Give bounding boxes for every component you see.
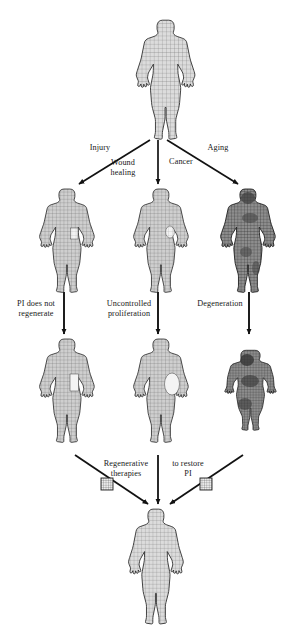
- node-non-regenerating-body: [40, 339, 95, 442]
- tumour-mass: [165, 373, 180, 395]
- body-silhouette: [40, 339, 95, 442]
- label-to-restore-pi: to restore PI: [162, 459, 214, 478]
- body-silhouette: [134, 339, 189, 442]
- body-silhouette: [221, 189, 276, 292]
- body-silhouette: [134, 189, 189, 292]
- body-silhouette: [136, 20, 195, 139]
- grid-scaffold-icon: [200, 478, 212, 490]
- label-injury: Injury: [78, 143, 122, 153]
- body-silhouette: [129, 509, 184, 624]
- label-regenerative-therapies: Regenerative therapies: [95, 459, 157, 478]
- aging-patch: [242, 213, 258, 223]
- aging-patch: [252, 261, 260, 275]
- label-cancer: Cancer: [160, 157, 202, 167]
- label-wound-healing: Wound healing: [95, 158, 151, 177]
- non-regenerated-defect: [70, 374, 79, 391]
- body-silhouette: [40, 189, 95, 292]
- label-degeneration: Degeneration: [189, 299, 251, 309]
- tumour-marker: [166, 226, 175, 238]
- node-degenerated-body: [225, 350, 276, 430]
- flow-diagram: Injury Wound healing Cancer Aging PI doe…: [0, 0, 297, 632]
- aging-patch: [241, 192, 255, 204]
- node-injured-body: [40, 189, 95, 292]
- label-aging: Aging: [198, 143, 238, 153]
- label-pi-does-not-regenerate: PI does not regenerate: [6, 299, 66, 318]
- node-healthy-top: [136, 20, 195, 139]
- node-proliferating-body: [134, 339, 189, 442]
- aging-patch: [240, 247, 252, 257]
- grid-scaffold-icon: [101, 478, 113, 490]
- injury-site-marker: [71, 228, 79, 239]
- degeneration-patch: [238, 398, 252, 410]
- node-restored-body: [129, 509, 184, 624]
- node-aging-body: [221, 189, 276, 292]
- node-cancer-body: [134, 189, 189, 292]
- degeneration-patch: [241, 375, 259, 387]
- label-uncontrolled-proliferation: Uncontrolled proliferation: [98, 299, 160, 318]
- degeneration-patch: [240, 354, 254, 366]
